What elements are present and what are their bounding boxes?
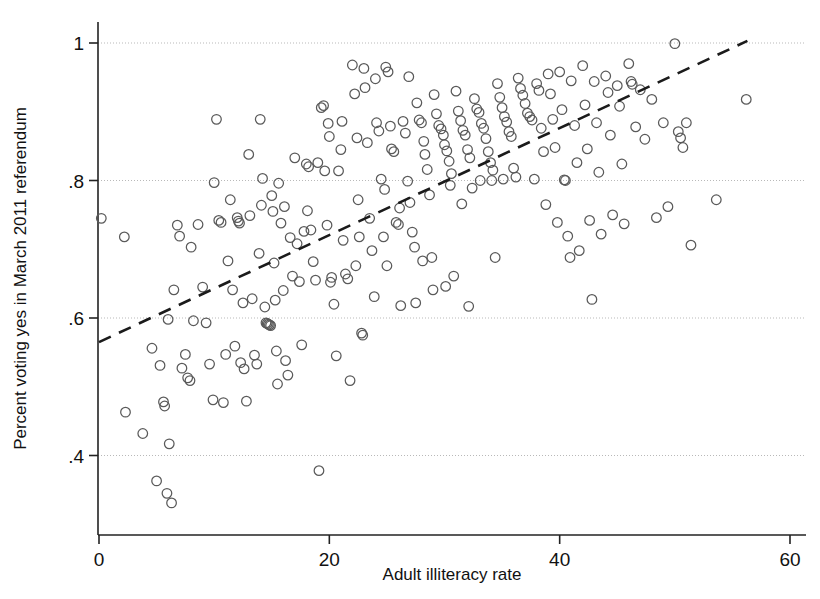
data-point: [457, 199, 467, 209]
data-point: [527, 115, 537, 125]
data-point: [594, 167, 604, 177]
data-point: [208, 395, 218, 405]
data-point: [682, 118, 692, 128]
data-point: [254, 249, 264, 259]
data-point: [407, 227, 417, 237]
data-point: [238, 298, 248, 308]
data-point: [617, 159, 627, 169]
data-point: [612, 81, 622, 91]
data-point: [592, 118, 602, 128]
data-point: [541, 200, 551, 210]
data-points-group: [97, 39, 752, 508]
data-point: [398, 117, 408, 127]
data-point: [353, 195, 363, 205]
data-point: [678, 143, 688, 153]
data-point: [363, 138, 373, 148]
data-point: [445, 181, 455, 191]
data-point: [601, 71, 611, 81]
data-point: [539, 147, 549, 157]
data-point: [336, 145, 346, 155]
data-point: [255, 115, 265, 125]
data-point: [411, 298, 421, 308]
data-point: [167, 498, 177, 508]
data-point: [525, 112, 535, 122]
data-point: [162, 489, 172, 499]
x-tick-label: 40: [549, 549, 570, 570]
data-point: [138, 429, 148, 439]
data-point: [497, 103, 507, 113]
data-point: [615, 101, 625, 111]
data-point: [440, 140, 450, 150]
data-point: [686, 240, 696, 250]
data-point: [250, 350, 260, 360]
data-point: [631, 122, 641, 132]
data-point: [369, 292, 379, 302]
data-point: [550, 143, 560, 153]
data-point: [152, 476, 162, 486]
data-point: [587, 295, 597, 305]
data-point: [316, 103, 326, 113]
data-point: [420, 150, 430, 160]
data-point: [223, 256, 233, 266]
data-point: [676, 133, 686, 143]
data-point: [659, 118, 669, 128]
data-point: [663, 202, 673, 212]
data-point: [212, 115, 222, 125]
data-point: [329, 299, 339, 309]
data-point: [380, 185, 390, 195]
data-point: [412, 98, 422, 108]
data-point: [439, 130, 449, 140]
x-tick-label: 20: [319, 549, 340, 570]
data-point: [436, 124, 446, 134]
data-point: [606, 130, 616, 140]
data-point: [493, 79, 503, 89]
data-point: [652, 213, 662, 223]
data-point: [418, 256, 428, 266]
data-point: [449, 271, 459, 281]
data-point: [274, 178, 284, 188]
data-point: [308, 257, 318, 267]
data-point: [278, 286, 288, 296]
data-point: [268, 207, 278, 217]
data-point: [454, 106, 464, 116]
data-point: [175, 231, 185, 241]
data-point: [401, 128, 411, 138]
data-point: [120, 232, 130, 242]
data-point: [585, 216, 595, 226]
data-point: [447, 169, 457, 179]
data-point: [557, 105, 567, 115]
data-point: [434, 121, 444, 131]
data-point: [451, 86, 461, 96]
data-point: [387, 144, 397, 154]
data-point: [509, 163, 519, 173]
data-point: [548, 115, 558, 125]
data-point: [589, 77, 599, 87]
data-point: [205, 359, 215, 369]
data-point: [403, 176, 413, 186]
data-point: [319, 101, 329, 111]
data-point: [502, 117, 512, 127]
data-point: [429, 90, 439, 100]
scatter-chart: .4.6.810204060 Adult illiteracy rate Per…: [0, 0, 820, 599]
data-point: [280, 202, 290, 212]
data-point: [314, 466, 324, 476]
data-point: [189, 316, 199, 326]
data-point: [530, 174, 540, 184]
y-tick-label: 1: [73, 33, 84, 54]
data-point: [490, 253, 500, 263]
data-point: [272, 346, 282, 356]
data-point: [474, 108, 484, 118]
data-point: [566, 76, 576, 86]
data-point: [323, 119, 333, 129]
data-point: [121, 407, 131, 417]
tick-labels-group: .4.6.810204060: [68, 33, 800, 570]
data-point: [441, 282, 451, 292]
data-point: [379, 232, 389, 242]
data-point: [147, 343, 157, 353]
data-point: [334, 166, 344, 176]
data-point: [472, 104, 482, 114]
data-point: [183, 373, 193, 383]
x-tick-label: 0: [94, 549, 105, 570]
data-point: [258, 174, 268, 184]
data-point: [444, 156, 454, 166]
